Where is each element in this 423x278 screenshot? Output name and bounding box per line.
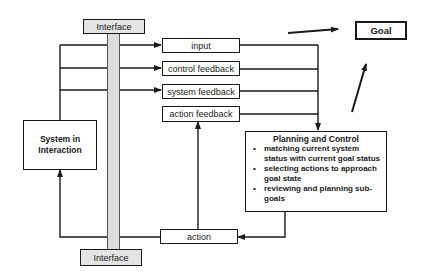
action-feedback-label: action feedback [169, 109, 232, 119]
system-in-interaction-box: System in Interaction [23, 120, 97, 170]
system-label-line2: Interaction [38, 145, 81, 156]
action-feedback-box: action feedback [162, 106, 240, 122]
action-box: action [160, 229, 238, 244]
planning-bullet-list: matching current system status with curr… [251, 144, 381, 204]
interface-bar [107, 33, 120, 250]
planning-and-control-box: Planning and Control matching current sy… [245, 131, 387, 212]
system-label-line1: System in [40, 134, 80, 145]
input-label: input [191, 41, 211, 51]
planning-bullet: selecting actions to approach goal state [264, 164, 381, 184]
control-feedback-label: control feedback [168, 64, 234, 74]
control-feedback-box: control feedback [162, 61, 240, 76]
interface-bottom-label: Interface [80, 249, 142, 266]
goal-label: Goal [370, 25, 391, 36]
interface-bottom-text: Interface [93, 253, 128, 263]
system-feedback-label: system feedback [167, 87, 235, 97]
interface-top-label: Interface [83, 19, 145, 34]
planning-bullet: reviewing and planning sub-goals [264, 184, 381, 204]
action-label: action [187, 232, 211, 242]
goal-box: Goal [355, 21, 407, 40]
interface-top-text: Interface [96, 22, 131, 32]
system-feedback-box: system feedback [162, 84, 240, 99]
planning-bullet: matching current system status with curr… [264, 144, 381, 164]
input-box: input [162, 38, 240, 53]
planning-title: Planning and Control [251, 134, 381, 144]
